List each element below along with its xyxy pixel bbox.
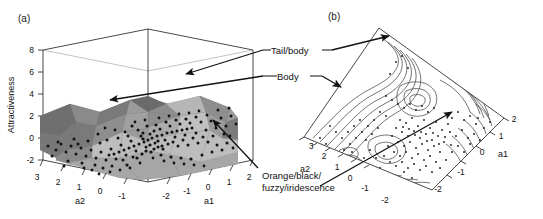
panel-a-tag: (a) <box>18 13 30 24</box>
annotation-body-label: Body <box>277 71 299 82</box>
annotation-tail-body-label: Tail/body <box>271 45 309 56</box>
b-y-tick-3: -1 <box>457 167 465 177</box>
annotation-orange-black-label-line1: Orange/black/ <box>262 170 322 181</box>
a-y-tick-4: 2 <box>247 172 252 182</box>
b-x-tick-3: 0 <box>348 173 353 183</box>
a-y-tick-3: 1 <box>227 177 232 187</box>
b-y-tick-1: 1 <box>499 131 504 141</box>
z-tick-0: 8 <box>29 45 34 55</box>
b-y-tick-0: 2 <box>512 114 517 124</box>
z-tick-5: -2 <box>26 155 34 165</box>
b-y-tick-4: -2 <box>434 184 442 194</box>
a-x-tick-1: 2 <box>56 177 61 187</box>
panel-b-tag: (b) <box>328 11 340 22</box>
z-tick-4: 0 <box>29 133 34 143</box>
b-x-tick-2: 1 <box>335 162 340 172</box>
a-x-tick-2: 1 <box>77 182 82 192</box>
a-y-tick-2: 0 <box>206 182 211 192</box>
b-x-tick-5: -2 <box>381 195 389 205</box>
b-x-tick-1: 2 <box>322 151 327 161</box>
z-tick-2: 4 <box>29 89 34 99</box>
b-x-tick-0: 3 <box>309 141 314 151</box>
panel-a-zlabel: Attractiveness <box>6 76 16 133</box>
figure-root: (a) 8 6 <box>0 0 543 219</box>
z-tick-1: 6 <box>29 67 34 77</box>
figure-svg: (a) 8 6 <box>0 0 543 219</box>
a-y-tick-0: -2 <box>162 191 170 201</box>
b-x-tick-4: -1 <box>361 183 369 193</box>
a-x-tick-0: 3 <box>35 172 40 182</box>
panel-a-xlabel: a2 <box>75 196 85 206</box>
panel-a-ylabel: a1 <box>204 196 214 206</box>
a-x-tick-4: -1 <box>118 191 126 201</box>
a-y-tick-1: -1 <box>183 186 191 196</box>
z-tick-3: 2 <box>29 111 34 121</box>
panel-b-ylabel: a1 <box>498 149 508 159</box>
a-x-tick-3: 0 <box>98 186 103 196</box>
b-y-tick-2: 0 <box>480 147 485 157</box>
